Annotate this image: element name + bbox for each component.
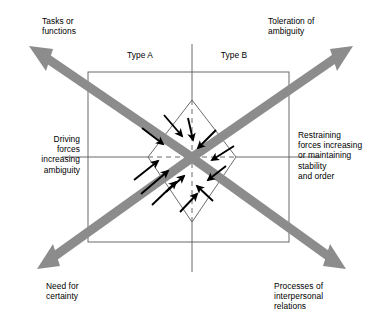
black-arrow-10 <box>197 186 213 201</box>
diagram-root: Tasks or functions Toleration of ambigui… <box>0 0 382 322</box>
black-arrow-11 <box>180 194 197 212</box>
label-need-for-certainty: Need for certainty <box>46 281 136 301</box>
label-toleration-of-ambiguity: Toleration of ambiguity <box>268 16 372 36</box>
label-restraining-forces: Restraining forces increasing or maintai… <box>298 130 382 181</box>
label-driving-forces: Driving forces increasing ambiguity <box>6 134 80 175</box>
label-processes-of-interpersonal-relations: Processes of interpersonal relations <box>274 281 374 312</box>
label-type-a: Type A <box>112 50 168 60</box>
label-type-b: Type B <box>206 50 262 60</box>
label-tasks-or-functions: Tasks or functions <box>42 16 138 36</box>
black-arrow-3 <box>134 161 158 180</box>
black-arrow-7 <box>212 146 234 160</box>
